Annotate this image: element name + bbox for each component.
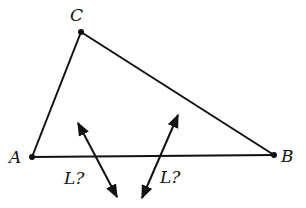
- triangle-diagram: C A B L? L?: [0, 0, 306, 208]
- vertex-b-point: [271, 152, 277, 158]
- edge-ab: [32, 155, 274, 157]
- candidate-line-left-label: L?: [63, 168, 85, 188]
- vertex-a-label: A: [7, 147, 21, 167]
- vertex-a-point: [29, 154, 35, 160]
- edge-ac: [32, 32, 81, 157]
- edge-cb: [81, 32, 274, 155]
- candidate-line-right-label: L?: [159, 167, 181, 187]
- vertex-c-label: C: [70, 5, 83, 25]
- vertex-b-label: B: [280, 146, 294, 166]
- vertex-c-point: [78, 29, 84, 35]
